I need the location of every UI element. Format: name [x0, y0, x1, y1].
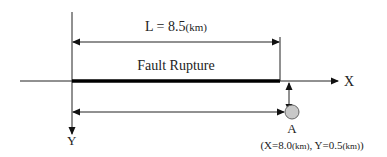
length-label: L = 8.5(km) — [145, 19, 207, 34]
point-a-label: A — [287, 121, 297, 136]
length-value: L = 8.5 — [145, 19, 185, 34]
length-unit: (km) — [186, 21, 208, 34]
y-axis-label: Y — [67, 133, 77, 148]
point-a-coordinates: (X=8.0(km), Y=0.5(km)) — [260, 139, 364, 152]
point-a-marker — [285, 105, 299, 119]
fault-diagram: X Y L = 8.5(km) Fault Rupture A (X=8.0(k… — [0, 0, 387, 157]
fault-label: Fault Rupture — [137, 58, 214, 73]
x-axis-label: X — [344, 74, 354, 89]
